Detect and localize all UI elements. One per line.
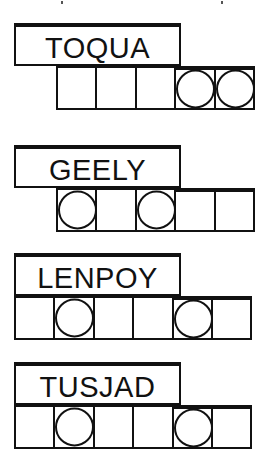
answer-cell[interactable] xyxy=(132,405,173,449)
circle-marker-icon xyxy=(174,300,213,339)
answer-cell[interactable] xyxy=(95,66,136,110)
answer-cells xyxy=(56,188,255,232)
answer-cell-circled[interactable] xyxy=(56,188,97,232)
answer-cell[interactable] xyxy=(211,296,252,340)
scrambled-word: TOQUA xyxy=(16,32,179,65)
answer-cell[interactable] xyxy=(214,188,255,232)
answer-cell[interactable] xyxy=(211,405,252,449)
circle-marker-icon xyxy=(55,299,94,338)
answer-cell-circled[interactable] xyxy=(53,405,94,449)
circle-marker-icon xyxy=(137,191,176,230)
cropped-text-fragment xyxy=(221,1,223,4)
circle-marker-icon xyxy=(174,409,213,448)
answer-cell[interactable] xyxy=(56,66,97,110)
answer-cell[interactable] xyxy=(14,296,55,340)
cropped-text-fragment xyxy=(61,1,63,4)
scrambled-word-box: TOQUA xyxy=(14,23,181,66)
answer-cells xyxy=(14,296,252,340)
circle-marker-icon xyxy=(55,408,94,447)
scrambled-word: LENPOY xyxy=(16,262,179,295)
scrambled-word-box: LENPOY xyxy=(14,253,181,296)
answer-cell-circled[interactable] xyxy=(214,66,255,110)
answer-cell[interactable] xyxy=(95,188,136,232)
scrambled-word: GEELY xyxy=(16,154,179,187)
circle-marker-icon xyxy=(176,70,215,109)
answer-cell[interactable] xyxy=(132,296,173,340)
answer-cells xyxy=(56,66,255,110)
scrambled-word-box: TUSJAD xyxy=(14,362,181,405)
circle-marker-icon xyxy=(216,70,255,109)
answer-cell-circled[interactable] xyxy=(53,296,94,340)
answer-cell[interactable] xyxy=(174,188,215,232)
answer-cell[interactable] xyxy=(14,405,55,449)
scrambled-word: TUSJAD xyxy=(16,371,179,404)
answer-cell[interactable] xyxy=(93,296,134,340)
answer-cell-circled[interactable] xyxy=(174,66,215,110)
answer-cell-circled[interactable] xyxy=(172,405,213,449)
answer-cell[interactable] xyxy=(93,405,134,449)
circle-marker-icon xyxy=(58,191,97,230)
answer-cells xyxy=(14,405,252,449)
answer-cell-circled[interactable] xyxy=(135,188,176,232)
answer-cell-circled[interactable] xyxy=(172,296,213,340)
answer-cell[interactable] xyxy=(135,66,176,110)
scrambled-word-box: GEELY xyxy=(14,145,181,188)
